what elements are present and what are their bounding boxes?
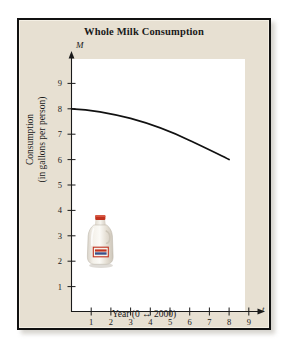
- consumption-curve: [72, 109, 230, 160]
- y-tick-label-8: 8: [50, 105, 62, 114]
- y-tick-label-6: 6: [50, 156, 62, 165]
- milk-jug-icon: [82, 211, 118, 269]
- x-tick-label-7: 7: [202, 318, 216, 327]
- y-axis-caption: Consumption (in gallons per person): [25, 65, 48, 215]
- y-tick-label-5: 5: [50, 181, 62, 190]
- x-tick-label-9: 9: [242, 318, 256, 327]
- y-tick-label-7: 7: [50, 130, 62, 139]
- x-tick-label-2: 2: [104, 318, 118, 327]
- x-tick-label-3: 3: [124, 318, 138, 327]
- y-tick-label-2: 2: [50, 257, 62, 266]
- milk-jug-cap-highlight: [95, 215, 105, 217]
- x-axis-caption: Year (0 ↔ 2000): [19, 309, 269, 319]
- x-tick-label-5: 5: [163, 318, 177, 327]
- y-tick-label-3: 3: [50, 232, 62, 241]
- x-tick-label-1: 1: [84, 318, 98, 327]
- y-axis-variable-label: M: [76, 40, 84, 50]
- y-axis-arrowhead: [69, 51, 75, 59]
- milk-jug-label-text: [95, 249, 107, 251]
- framed-plate: Whole Milk Consumption: [17, 18, 271, 330]
- x-tick-label-6: 6: [183, 318, 197, 327]
- y-tick-label-1: 1: [50, 283, 62, 292]
- figure-container: Whole Milk Consumption: [0, 0, 294, 358]
- y-tick-label-9: 9: [50, 79, 62, 88]
- x-tick-label-4: 4: [143, 318, 157, 327]
- y-axis-caption-line2: (in gallons per person): [36, 65, 48, 215]
- y-tick-label-4: 4: [50, 206, 62, 215]
- milk-jug-label-band: [95, 252, 107, 254]
- milk-jug-label: [93, 247, 108, 257]
- x-tick-label-8: 8: [222, 318, 236, 327]
- y-axis-caption-line1: Consumption: [25, 65, 37, 215]
